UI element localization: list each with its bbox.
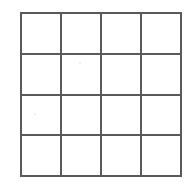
diagram-canvas (0, 0, 194, 184)
grid-cell[interactable] (142, 55, 180, 94)
grid-4x4 (20, 12, 182, 177)
grid-cell[interactable] (142, 136, 180, 175)
grid-cell[interactable] (22, 96, 60, 135)
grid-cell[interactable] (102, 55, 140, 94)
grid-cell[interactable] (62, 96, 100, 135)
grid-cell[interactable] (142, 96, 180, 135)
grid-cell[interactable] (102, 14, 140, 53)
grid-cell[interactable] (62, 136, 100, 175)
grid-cell[interactable] (22, 136, 60, 175)
grid-cell[interactable] (22, 55, 60, 94)
grid-cell[interactable] (102, 96, 140, 135)
grid-cell[interactable] (142, 14, 180, 53)
grid-cell[interactable] (62, 14, 100, 53)
grid-cell[interactable] (62, 55, 100, 94)
grid-cell[interactable] (22, 14, 60, 53)
grid-cell[interactable] (102, 136, 140, 175)
